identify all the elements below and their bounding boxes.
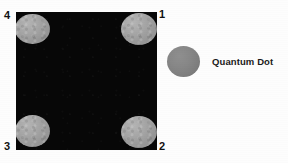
legend: Quantum Dot bbox=[167, 46, 273, 77]
legend-quantum-dot-swatch bbox=[167, 46, 200, 77]
legend-label: Quantum Dot bbox=[212, 56, 273, 67]
quantum-dot-bottom-left bbox=[16, 115, 50, 147]
corner-label-bottom-right: 2 bbox=[159, 141, 165, 152]
quantum-dot-figure: 4 1 3 2 Quantum Dot bbox=[0, 0, 288, 163]
quantum-dot-top-right bbox=[121, 13, 157, 45]
corner-label-bottom-left: 3 bbox=[4, 141, 10, 152]
quantum-dot-top-left bbox=[16, 14, 50, 44]
corner-label-top-left: 4 bbox=[4, 10, 10, 21]
corner-label-top-right: 1 bbox=[159, 9, 165, 20]
quantum-dot-bottom-right bbox=[121, 116, 157, 148]
caption-remnant bbox=[10, 157, 240, 163]
substrate-square bbox=[16, 12, 157, 150]
